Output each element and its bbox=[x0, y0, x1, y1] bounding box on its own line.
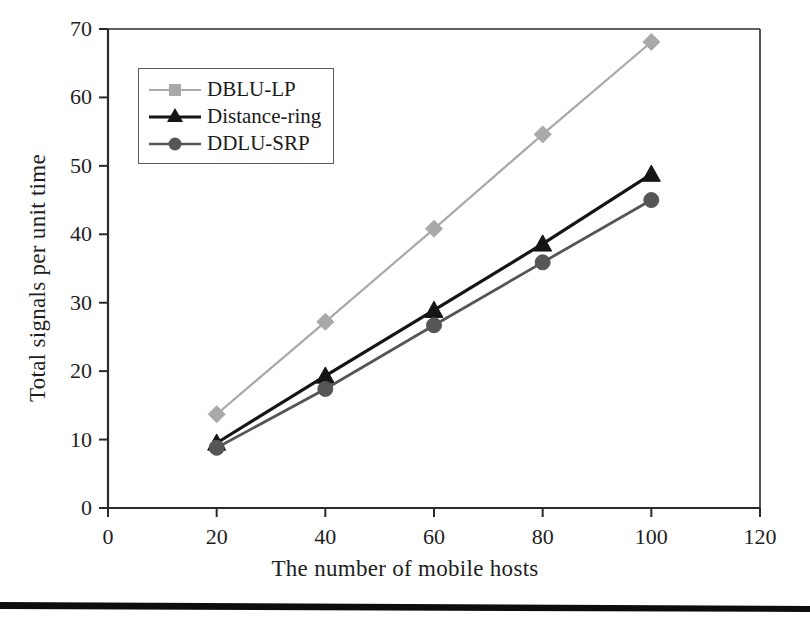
chart-legend: DBLU-LP Distance-ring DDLU bbox=[138, 68, 334, 164]
triangle-marker-icon bbox=[642, 165, 660, 181]
series-distance-ring bbox=[208, 165, 661, 450]
circle-marker-icon bbox=[427, 318, 442, 333]
triangle-marker-icon bbox=[425, 301, 443, 317]
x-tick-label: 0 bbox=[103, 526, 114, 548]
page-bottom-rule bbox=[0, 601, 810, 613]
x-tick-label: 60 bbox=[423, 526, 445, 548]
y-axis-title: Total signals per unit time bbox=[25, 128, 51, 428]
triangle-marker-icon bbox=[534, 235, 552, 251]
circle-marker-icon bbox=[535, 255, 550, 270]
y-tick-label: 10 bbox=[30, 429, 92, 451]
x-tick-label: 20 bbox=[206, 526, 228, 548]
circle-marker-icon bbox=[169, 137, 182, 150]
y-tick-label: 70 bbox=[30, 18, 92, 40]
figure-page: 010203040506070 020406080100120 The numb… bbox=[0, 0, 810, 628]
x-axis-title: The number of mobile hosts bbox=[0, 556, 810, 582]
legend-label-ddlu-srp: DDLU-SRP bbox=[207, 133, 310, 154]
circle-marker-icon bbox=[209, 440, 224, 455]
circle-marker-icon bbox=[644, 193, 659, 208]
chart-figure: 010203040506070 020406080100120 The numb… bbox=[0, 0, 810, 600]
circle-marker-icon bbox=[318, 381, 333, 396]
legend-label-distance-ring: Distance-ring bbox=[207, 106, 321, 127]
diamond-marker-icon bbox=[169, 84, 181, 96]
legend-swatch-ddlu-srp bbox=[149, 134, 201, 154]
y-tick-label: 60 bbox=[30, 86, 92, 108]
legend-entry-ddlu-srp: DDLU-SRP bbox=[149, 130, 333, 157]
legend-label-dblu-lp: DBLU-LP bbox=[207, 79, 296, 100]
chart-plot-area bbox=[0, 0, 810, 600]
y-tick-label: 0 bbox=[30, 497, 92, 519]
triangle-marker-icon bbox=[316, 367, 334, 383]
x-tick-label: 80 bbox=[532, 526, 554, 548]
legend-swatch-distance-ring bbox=[149, 107, 201, 127]
triangle-marker-icon bbox=[167, 108, 183, 122]
legend-entry-distance-ring: Distance-ring bbox=[149, 103, 333, 130]
legend-swatch-dblu-lp bbox=[149, 80, 201, 100]
x-tick-label: 40 bbox=[314, 526, 336, 548]
x-tick-label: 120 bbox=[744, 526, 777, 548]
x-tick-label: 100 bbox=[635, 526, 668, 548]
legend-entry-dblu-lp: DBLU-LP bbox=[149, 76, 333, 103]
